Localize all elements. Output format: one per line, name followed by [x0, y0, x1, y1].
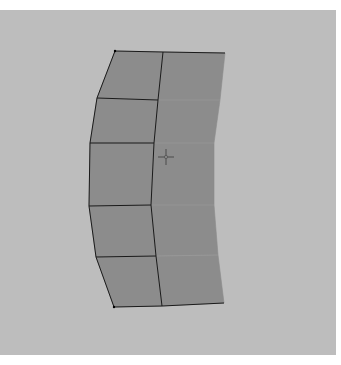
mesh-face[interactable] [154, 100, 220, 143]
mesh-vertex[interactable] [114, 50, 116, 52]
mesh-face[interactable] [96, 256, 162, 307]
mesh-face[interactable] [89, 143, 154, 206]
mesh-face[interactable] [151, 205, 218, 256]
mesh-face[interactable] [156, 255, 224, 306]
mesh-vertex[interactable] [113, 306, 115, 308]
mesh-face[interactable] [89, 205, 156, 257]
mesh-face[interactable] [90, 98, 158, 143]
mesh-face[interactable] [97, 51, 163, 100]
curved-plane-mesh[interactable] [89, 50, 225, 308]
mesh-face[interactable] [158, 52, 225, 100]
mesh-face[interactable] [151, 143, 214, 205]
mesh-canvas[interactable] [0, 0, 341, 365]
